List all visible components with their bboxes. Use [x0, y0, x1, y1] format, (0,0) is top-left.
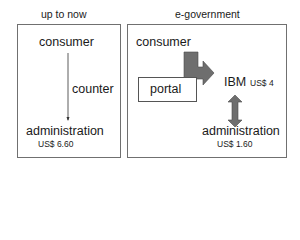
- provider-cost-label: US$ 4: [250, 78, 274, 88]
- ibm-administration-double-arrow-icon: [228, 95, 242, 127]
- left-flow-arrowhead: [67, 117, 70, 121]
- portal-label: portal: [150, 82, 181, 96]
- right-administration-label: administration: [202, 124, 280, 138]
- provider-label: IBM: [224, 75, 246, 89]
- right-cost-label: US$ 1.60: [217, 139, 252, 149]
